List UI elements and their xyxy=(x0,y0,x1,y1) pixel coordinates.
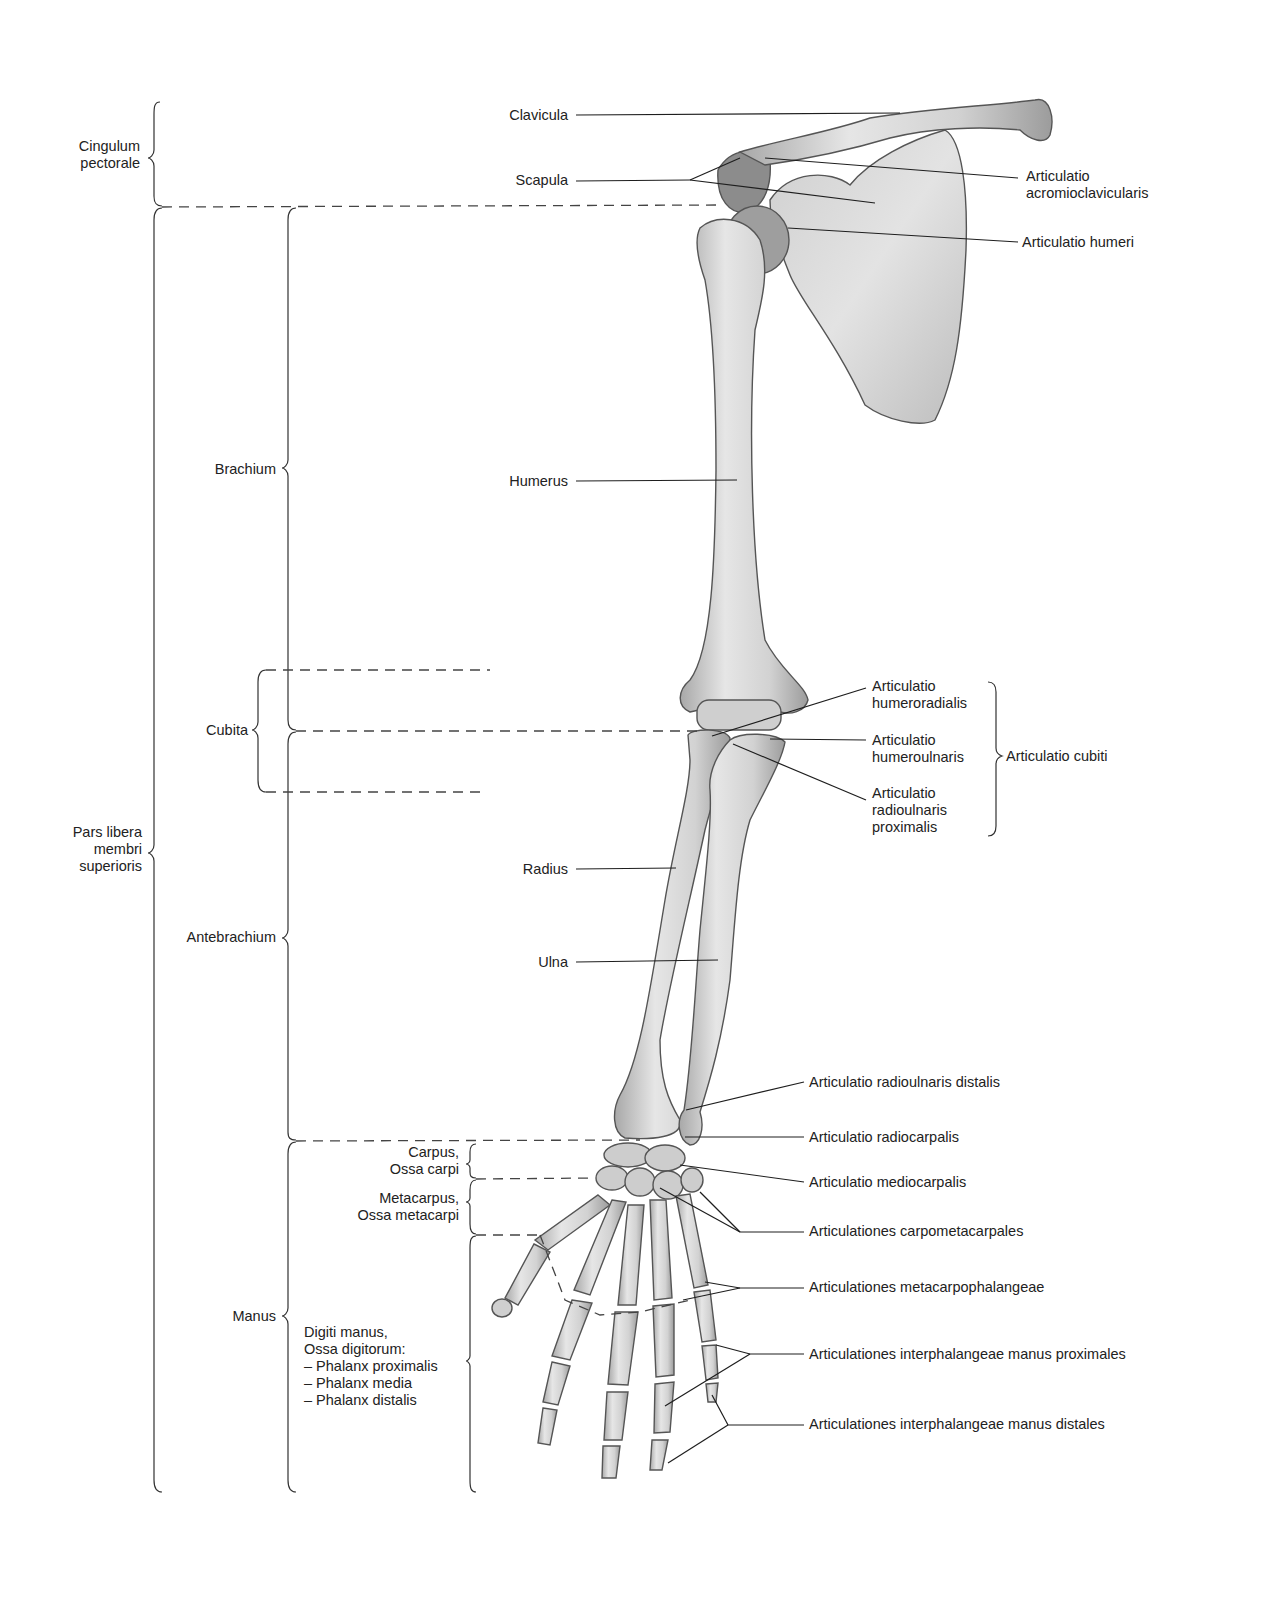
label-clavicula: Clavicula xyxy=(509,107,568,124)
label-articulatio-radiocarpalis: Articulatio radiocarpalis xyxy=(809,1129,959,1146)
label-articulationes-carpometacarpales: Articulationes carpometacarpales xyxy=(809,1223,1023,1240)
bracket-metacarpus xyxy=(466,1180,476,1234)
label-cingulum-pectorale: Cingulum pectorale xyxy=(79,138,140,172)
label-articulationes-interphalangeae-distales: Articulationes interphalangeae manus dis… xyxy=(809,1416,1105,1433)
label-articulatio-humeri: Articulatio humeri xyxy=(1022,234,1134,251)
bracket-cubita xyxy=(252,670,266,792)
label-antebrachium: Antebrachium xyxy=(187,929,276,946)
bracket-carpus xyxy=(466,1144,476,1178)
label-carpus: Carpus, Ossa carpi xyxy=(390,1144,459,1178)
anatomy-diagram: Cingulum pectorale Pars libera membri su… xyxy=(0,0,1264,1598)
label-articulatio-cubiti: Articulatio cubiti xyxy=(1006,748,1108,765)
humerus-bone xyxy=(680,219,808,713)
label-manus: Manus xyxy=(232,1308,276,1325)
label-articulatio-radioulnaris-proximalis: Articulatio radioulnaris proximalis xyxy=(872,785,947,836)
label-metacarpus: Metacarpus, Ossa metacarpi xyxy=(357,1190,459,1224)
label-articulatio-acromioclavicularis: Articulatio acromioclavicularis xyxy=(1026,168,1148,202)
label-brachium: Brachium xyxy=(215,461,276,478)
label-humerus: Humerus xyxy=(509,473,568,490)
label-ulna: Ulna xyxy=(538,954,568,971)
bracket-articulatio-cubiti xyxy=(988,682,1002,836)
label-articulatio-radioulnaris-distalis: Articulatio radioulnaris distalis xyxy=(809,1074,1000,1091)
bracket-pars-libera xyxy=(148,208,162,1492)
label-digiti-manus: Digiti manus, Ossa digitorum: – Phalanx … xyxy=(304,1324,438,1409)
ring-finger-bones xyxy=(650,1200,674,1470)
scapula-bone xyxy=(770,130,966,423)
label-articulatio-humeroulnaris: Articulatio humeroulnaris xyxy=(872,732,964,766)
label-pars-libera: Pars libera membri superioris xyxy=(73,824,142,875)
bracket-manus xyxy=(282,1142,296,1492)
label-articulatio-humeroradialis: Articulatio humeroradialis xyxy=(872,678,967,712)
bracket-cingulum xyxy=(148,102,162,206)
little-finger-bones xyxy=(676,1194,718,1402)
trochlea xyxy=(697,700,781,730)
bracket-digiti xyxy=(466,1236,476,1492)
label-articulationes-metacarpophalangeae: Articulationes metacarpophalangeae xyxy=(809,1279,1044,1296)
bones-illustration xyxy=(492,100,1052,1478)
label-articulatio-mediocarpalis: Articulatio mediocarpalis xyxy=(809,1174,966,1191)
label-radius: Radius xyxy=(523,861,568,878)
bracket-antebrachium xyxy=(282,732,296,1140)
label-scapula: Scapula xyxy=(516,172,568,189)
label-articulationes-interphalangeae-proximales: Articulationes interphalangeae manus pro… xyxy=(809,1346,1126,1363)
carpal-bones xyxy=(596,1143,703,1199)
label-cubita: Cubita xyxy=(206,722,248,739)
bracket-brachium xyxy=(282,208,296,730)
